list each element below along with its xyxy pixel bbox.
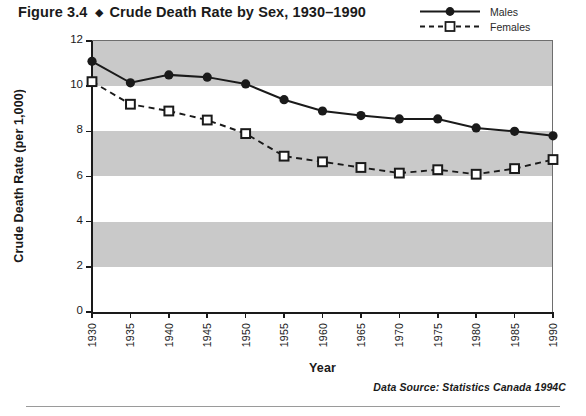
data-point-males: [510, 127, 519, 136]
x-tick-label: 1990: [547, 323, 559, 347]
legend-label-females: Females: [490, 21, 530, 33]
data-point-males: [318, 106, 327, 115]
data-point-males: [241, 79, 250, 88]
page-title: Crude Death Rate by Sex, 1930–1990: [110, 4, 366, 20]
x-tick-label: 1965: [355, 323, 367, 347]
plot-area: 024681012 193019351940194519501955196019…: [92, 41, 553, 312]
y-tick-label: 12: [70, 33, 83, 45]
legend-item-females: Females: [418, 19, 530, 34]
series-line-males: [92, 61, 553, 136]
y-tick-label: 2: [77, 259, 83, 271]
source-note: Data Source: Statistics Canada 1994C: [373, 381, 566, 393]
x-tick-label: 1940: [163, 323, 175, 347]
data-series-layer: [92, 41, 553, 312]
x-tick-label: 1930: [86, 323, 98, 347]
data-point-females: [280, 152, 289, 161]
data-point-females: [510, 164, 519, 173]
y-axis-label: Crude Death Rate (per 1,000): [8, 0, 30, 352]
y-tick-label: 6: [77, 169, 83, 181]
x-tick-label: 1955: [278, 323, 290, 347]
data-point-males: [126, 78, 135, 87]
x-tick-label: 1985: [509, 323, 521, 347]
data-point-males: [87, 57, 96, 66]
x-tick-label: 1960: [317, 323, 329, 347]
data-point-males: [279, 95, 288, 104]
x-tick-label: 1970: [393, 323, 405, 347]
y-tick-label: 0: [77, 304, 83, 316]
bottom-divider: [26, 406, 560, 407]
legend-item-males: Males: [418, 4, 530, 19]
data-point-females: [395, 169, 404, 178]
x-tick-label: 1950: [240, 323, 252, 347]
legend-swatch-dashed-square-icon: [418, 19, 482, 34]
x-tick-label: 1945: [201, 323, 213, 347]
data-point-females: [472, 170, 481, 179]
figure-title: Figure 3.4 ◆ Crude Death Rate by Sex, 19…: [18, 4, 366, 20]
x-tick-label: 1980: [470, 323, 482, 347]
legend: Males Females: [418, 4, 530, 34]
data-point-males: [433, 114, 442, 123]
data-point-females: [203, 116, 212, 125]
data-point-males: [164, 70, 173, 79]
x-axis-label: Year: [92, 361, 553, 375]
data-point-females: [126, 100, 135, 109]
x-axis-line: [91, 312, 553, 314]
x-tick-label: 1975: [432, 323, 444, 347]
data-point-females: [241, 129, 250, 138]
y-tick-label: 10: [70, 78, 83, 90]
data-point-females: [549, 155, 558, 164]
y-tick-label: 4: [77, 214, 83, 226]
data-point-females: [164, 107, 173, 116]
legend-swatch-solid-circle-icon: [418, 4, 482, 19]
diamond-icon: ◆: [95, 7, 103, 18]
data-point-males: [472, 123, 481, 132]
y-tick-label: 8: [77, 123, 83, 135]
data-point-males: [203, 73, 212, 82]
data-point-females: [88, 77, 97, 86]
data-point-males: [395, 114, 404, 123]
figure-container: Figure 3.4 ◆ Crude Death Rate by Sex, 19…: [0, 0, 586, 416]
data-point-females: [318, 157, 327, 166]
legend-label-males: Males: [490, 6, 518, 18]
data-point-females: [357, 163, 366, 172]
data-point-females: [433, 165, 442, 174]
x-tick-label: 1935: [124, 323, 136, 347]
data-point-males: [356, 111, 365, 120]
data-point-males: [548, 131, 557, 140]
